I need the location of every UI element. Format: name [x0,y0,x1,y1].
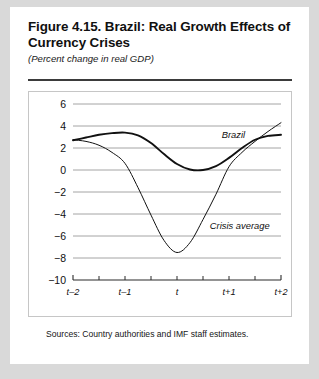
x-axis-tick-labels: t–2t–1tt+1t+2 [67,287,288,297]
series-annotations: BrazilCrisis average [210,129,270,231]
title-block: Figure 4.15. Brazil: Real Growth Effects… [28,19,296,64]
figure-card: Figure 4.15. Brazil: Real Growth Effects… [10,7,309,364]
y-tick-label: −2 [54,186,66,198]
figure-subtitle: (Percent change in real GDP) [28,53,296,64]
series-line-brazil [73,132,281,170]
series-label-crisis-average: Crisis average [210,220,270,231]
x-tick-label: t–2 [67,287,80,297]
axis-group [73,275,281,280]
y-tick-label: −10 [48,274,66,286]
y-tick-label: −6 [54,230,66,242]
gridlines-group [73,104,281,258]
y-tick-label: −8 [54,252,66,264]
source-note: Sources: Country authorities and IMF sta… [46,329,248,339]
y-axis-tick-labels: 6420−2−4−6−8−10 [48,98,66,286]
y-tick-label: 2 [60,142,66,154]
x-tick-label: t+2 [274,287,287,297]
x-tick-label: t–1 [119,287,132,297]
chart-plot-area: 6420−2−4−6−8−10 t–2t–1tt+1t+2 BrazilCris… [28,91,292,317]
page-title: Figure 4.15. Brazil: Real Growth Effects… [28,19,296,50]
y-tick-label: −4 [54,208,66,220]
line-chart: 6420−2−4−6−8−10 t–2t–1tt+1t+2 BrazilCris… [29,92,291,316]
y-tick-label: 6 [60,98,66,110]
x-tick-label: t [176,287,179,297]
title-divider [28,79,292,81]
y-tick-label: 0 [60,164,66,176]
x-tick-label: t+1 [222,287,235,297]
y-tick-label: 4 [60,120,66,132]
series-group [73,123,281,253]
series-label-brazil: Brazil [222,129,246,140]
